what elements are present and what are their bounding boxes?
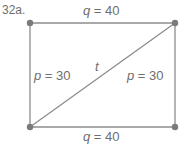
bottom-edge-label: q = 40 — [83, 130, 120, 144]
left-edge-value: = 30 — [41, 68, 70, 83]
vertex-top-right — [172, 20, 178, 26]
vertex-bottom-right — [172, 124, 178, 130]
top-edge-label: q = 40 — [83, 4, 120, 18]
top-edge-value: = 40 — [90, 3, 119, 18]
right-edge-value: = 30 — [134, 68, 163, 83]
left-edge-label: p = 30 — [34, 69, 71, 83]
vertex-top-left — [27, 20, 33, 26]
vertex-bottom-left — [27, 124, 33, 130]
diagonal-label: t — [95, 60, 99, 74]
bottom-edge-value: = 40 — [90, 129, 119, 144]
right-edge-label: p = 30 — [127, 69, 164, 83]
problem-number: 32a. — [2, 3, 25, 17]
diagonal-variable: t — [95, 59, 99, 74]
